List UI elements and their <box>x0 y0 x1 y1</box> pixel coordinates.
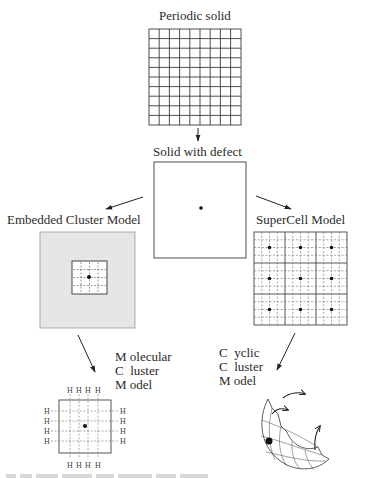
svg-text:H: H <box>120 407 126 416</box>
supercell-grid <box>254 232 347 325</box>
defect-box <box>154 162 246 258</box>
arrow-supercell-to-cyclic <box>277 333 295 370</box>
svg-text:H: H <box>85 461 91 470</box>
cyclic-cluster-shape <box>261 393 329 470</box>
rotation-arrow-top <box>283 393 305 398</box>
svg-text:H: H <box>120 417 126 426</box>
svg-text:H: H <box>44 427 50 436</box>
defect-dot <box>199 206 203 210</box>
arrow-defect-to-embedded <box>106 197 143 209</box>
molecular-cluster: HHHH HHHH HHHH HHHH <box>44 386 126 470</box>
svg-text:H: H <box>85 386 91 395</box>
svg-text:H: H <box>95 461 101 470</box>
embedded-defect-dot <box>87 275 91 279</box>
diagram-canvas: HHHH HHHH HHHH HHHH <box>0 0 365 478</box>
arrow-defect-to-supercell <box>256 196 291 209</box>
svg-text:H: H <box>76 461 82 470</box>
svg-text:H: H <box>67 386 73 395</box>
svg-text:H: H <box>95 386 101 395</box>
svg-text:H: H <box>120 437 126 446</box>
svg-text:H: H <box>120 427 126 436</box>
arrow-embedded-to-molecular <box>78 335 95 372</box>
embedded-cluster-box <box>40 232 135 328</box>
svg-text:H: H <box>44 407 50 416</box>
cyclic-defect-dot <box>266 438 273 445</box>
figure-caption-clipped <box>6 474 246 478</box>
periodic-solid-grid <box>149 29 241 125</box>
svg-text:H: H <box>67 461 73 470</box>
svg-text:H: H <box>76 386 82 395</box>
molecular-defect-dot <box>83 424 87 428</box>
svg-text:H: H <box>44 417 50 426</box>
svg-text:H: H <box>44 437 50 446</box>
